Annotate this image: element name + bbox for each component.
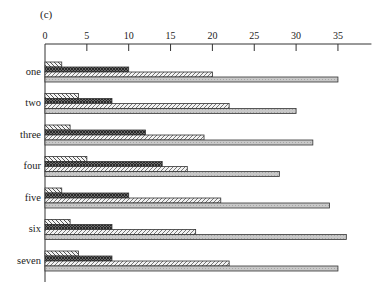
bar-three-series-2 bbox=[45, 130, 145, 135]
category-label-seven: seven bbox=[17, 255, 42, 266]
category-label-three: three bbox=[20, 129, 41, 140]
bar-seven-series-3 bbox=[45, 261, 229, 266]
bar-five-series-4 bbox=[45, 203, 330, 208]
bar-two-series-2 bbox=[45, 99, 112, 104]
bar-two-series-3 bbox=[45, 104, 229, 109]
category-label-two: two bbox=[25, 97, 41, 108]
category-label-four: four bbox=[24, 160, 42, 171]
category-labels: onetwothreefourfivesixseven bbox=[17, 66, 42, 266]
x-tick-label: 10 bbox=[124, 30, 134, 41]
x-tick-label: 15 bbox=[166, 30, 176, 41]
bar-two-series-1 bbox=[45, 94, 78, 99]
x-tick-label: 25 bbox=[249, 30, 259, 41]
bar-four-series-3 bbox=[45, 167, 187, 172]
category-label-one: one bbox=[26, 66, 42, 77]
bar-one-series-2 bbox=[45, 67, 129, 72]
bar-chart: (c) 05101520253035 onetwothreefourfivesi… bbox=[0, 0, 390, 300]
category-label-six: six bbox=[29, 223, 42, 234]
bars bbox=[45, 62, 346, 271]
x-tick-label: 0 bbox=[43, 30, 48, 41]
bar-four-series-2 bbox=[45, 162, 162, 167]
x-tick-label: 20 bbox=[207, 30, 217, 41]
bar-one-series-4 bbox=[45, 77, 338, 82]
bar-six-series-1 bbox=[45, 220, 70, 225]
bar-three-series-3 bbox=[45, 135, 204, 140]
bar-seven-series-1 bbox=[45, 251, 78, 256]
bar-four-series-1 bbox=[45, 157, 87, 162]
bar-three-series-1 bbox=[45, 125, 70, 130]
bar-seven-series-2 bbox=[45, 256, 112, 261]
x-tick-label: 5 bbox=[84, 30, 89, 41]
chart-title: (c) bbox=[40, 8, 53, 21]
bar-one-series-3 bbox=[45, 72, 212, 77]
bar-five-series-2 bbox=[45, 193, 129, 198]
bar-one-series-1 bbox=[45, 62, 62, 67]
x-tick-label: 30 bbox=[291, 30, 301, 41]
bar-six-series-2 bbox=[45, 225, 112, 230]
bar-six-series-4 bbox=[45, 235, 346, 240]
bar-six-series-3 bbox=[45, 230, 196, 235]
bar-five-series-3 bbox=[45, 198, 221, 203]
bar-seven-series-4 bbox=[45, 266, 338, 271]
bar-three-series-4 bbox=[45, 140, 313, 145]
bar-four-series-4 bbox=[45, 172, 279, 177]
bar-five-series-1 bbox=[45, 188, 62, 193]
category-label-five: five bbox=[25, 192, 42, 203]
bar-two-series-4 bbox=[45, 109, 296, 114]
x-tick-label: 35 bbox=[333, 30, 343, 41]
